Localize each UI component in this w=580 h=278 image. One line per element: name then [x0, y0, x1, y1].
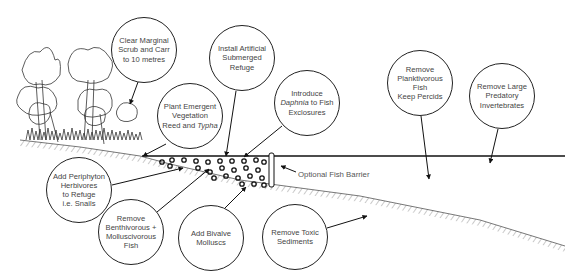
bubble-text-line: Clear Marginal: [118, 36, 170, 45]
bubble-text-line: Plant Emergent: [162, 102, 218, 111]
bubble-artificial-refuge: Install Artificial Submerged Refuge: [209, 25, 275, 91]
bubble-bivalve: Add Bivalve Molluscs: [178, 205, 244, 271]
bubble-text-line: i.e. Snails: [53, 199, 105, 208]
bubble-emergent-vegetation: Plant Emergent Vegetation Reed and Typha: [157, 83, 223, 149]
bubble-text-line: Scrub and Carr: [118, 45, 170, 54]
bubble-text-line: Remove Toxic: [271, 228, 319, 237]
bubble-text-line: Exclosures: [280, 108, 333, 117]
bubble-text-line: Invertebrates: [477, 101, 527, 110]
bubble-text-line: Keep Percids: [397, 92, 443, 101]
bubble-planktivorous: Remove Planktivorous Fish Keep Percids: [387, 50, 453, 116]
bubble-text-line-italic: Daphnia to Fish: [280, 98, 333, 107]
bubble-text-line: Fish: [106, 241, 157, 250]
bubble-text-line: Planktivorous: [397, 74, 443, 83]
bubble-text-line: Remove: [106, 214, 157, 223]
bubble-text-line-italic: Reed and Typha: [162, 121, 218, 130]
bubble-text-line: Sediments: [271, 237, 319, 246]
bubble-text-line: Molluscs: [191, 238, 231, 247]
fish-barrier-post: [269, 153, 274, 187]
bubble-daphnia: Introduce Daphnia to Fish Exclosures: [274, 70, 340, 136]
bubble-clear-scrub: Clear Marginal Scrub and Carr to 10 metr…: [111, 17, 177, 83]
bubble-text-line: Refuge: [218, 63, 266, 72]
bubble-text-line: to Refuge: [53, 190, 105, 199]
bubble-text-line: Add Periphyton: [53, 172, 105, 181]
bubble-toxic-sediments: Remove Toxic Sediments: [262, 204, 328, 270]
bubble-text-line: Introduce: [280, 89, 333, 98]
bubble-text-line: Install Artificial: [218, 44, 266, 53]
bubble-text-line: Herbivores: [53, 181, 105, 190]
bubble-text-line: Molluscivorous: [106, 232, 157, 241]
bubble-text-line: Remove: [397, 65, 443, 74]
bubble-text-line: Vegetation: [162, 111, 218, 120]
bubble-text-line: Remove Large: [477, 82, 527, 91]
bubble-text-line: Submerged: [218, 53, 266, 62]
bubble-benthivorous: Remove Benthivorous + Molluscivorous Fis…: [98, 199, 164, 265]
bubble-predatory-invertebrates: Remove Large Predatory Invertebrates: [469, 63, 535, 129]
bubble-text-line: Benthivorous +: [106, 223, 157, 232]
bubble-text-line: Fish: [397, 83, 443, 92]
fish-barrier-label: Optional Fish Barrier: [298, 170, 370, 179]
bubble-text-line: to 10 metres: [118, 55, 170, 64]
bubble-text-line: Add Bivalve: [191, 229, 231, 238]
bubble-text-line: Predatory: [477, 91, 527, 100]
diagram-canvas: Clear Marginal Scrub and Carr to 10 metr…: [0, 0, 580, 278]
